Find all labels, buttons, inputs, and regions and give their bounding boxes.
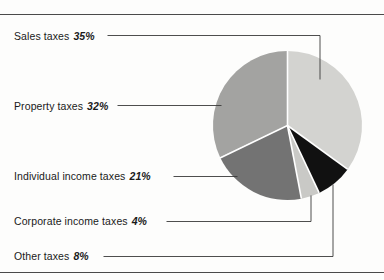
- callout-label-property-taxes-name: Property taxes: [14, 100, 83, 112]
- callout-label-sales-taxes: Sales taxes35%: [14, 30, 95, 43]
- pie-chart-figure: Sales taxes35% Property taxes32% Individ…: [0, 0, 384, 280]
- callout-label-individual-income-taxes-name: Individual income taxes: [14, 170, 125, 182]
- callout-label-corporate-income-taxes: Corporate income taxes4%: [14, 215, 147, 228]
- callout-label-other-taxes: Other taxes8%: [14, 250, 89, 263]
- callout-label-property-taxes-value: 32%: [87, 100, 108, 112]
- callout-label-other-taxes-value: 8%: [73, 250, 88, 262]
- callout-label-sales-taxes-name: Sales taxes: [14, 30, 69, 42]
- callout-label-sales-taxes-value: 35%: [73, 30, 94, 42]
- callout-label-other-taxes-name: Other taxes: [14, 250, 69, 262]
- callout-label-individual-income-taxes: Individual income taxes21%: [14, 170, 151, 183]
- callout-label-corporate-income-taxes-name: Corporate income taxes: [14, 215, 128, 227]
- callout-label-property-taxes: Property taxes32%: [14, 100, 108, 113]
- callout-label-individual-income-taxes-value: 21%: [129, 170, 150, 182]
- callout-label-corporate-income-taxes-value: 4%: [132, 215, 147, 227]
